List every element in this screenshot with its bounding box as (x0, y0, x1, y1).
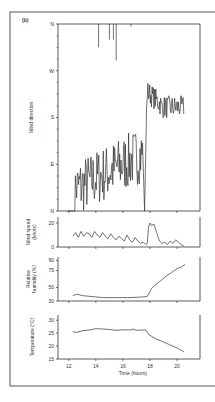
panel-wind-direction: NESWNWind direction (28, 21, 200, 214)
x-tick-label: 20 (174, 363, 180, 369)
y-tick-label: 90 (48, 257, 54, 263)
panel-temperature: 15202530Temperature (°C)1214161820Time (… (29, 315, 200, 376)
y-tick-label: N (50, 208, 54, 214)
x-tick-label: 16 (120, 363, 126, 369)
y-tick-label: 20 (48, 343, 54, 349)
wind-direction-line (68, 83, 184, 211)
y-tick-label: 30 (48, 317, 54, 323)
x-axis-label: Time (hours) (119, 370, 147, 376)
x-tick-label: 14 (93, 363, 99, 369)
x-tick-label: 18 (147, 363, 153, 369)
x-tick-label: 12 (66, 363, 72, 369)
y-tick-label: S (51, 114, 55, 120)
y-axis-label: (knots) (31, 224, 37, 240)
y-tick-label: 20 (48, 220, 54, 226)
y-axis-label: humidity (%) (31, 265, 37, 293)
y-tick-label: 30 (48, 298, 54, 304)
y-tick-label: W (49, 68, 54, 74)
panel-relative-humidity: 30507590Relativehumidity (%) (25, 257, 200, 304)
panel-label: (b) (22, 17, 29, 23)
y-tick-label: 0 (51, 244, 54, 250)
temperature-line (73, 329, 184, 352)
y-tick-label: 25 (48, 330, 54, 336)
y-axis-label: Temperature (°C) (29, 317, 35, 356)
wind-speed-line (73, 223, 184, 246)
y-tick-label: 15 (48, 356, 54, 362)
y-tick-label: 75 (48, 267, 54, 273)
y-axis-label: Wind direction (28, 101, 34, 133)
y-tick-label: 50 (48, 284, 54, 290)
figure-canvas: (b) NESWNWind direction020Wind speed(kno… (0, 0, 215, 402)
y-tick-label: N (50, 21, 54, 27)
y-tick-label: E (51, 161, 55, 167)
relative-humidity-line (73, 264, 185, 297)
panel-wind-speed: 020Wind speed(knots) (25, 217, 200, 250)
